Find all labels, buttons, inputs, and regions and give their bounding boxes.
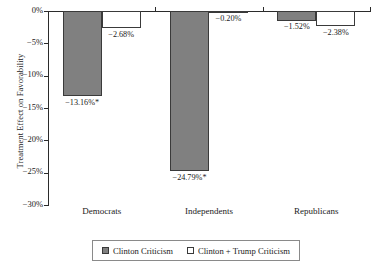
bar bbox=[63, 11, 102, 96]
bar bbox=[277, 11, 316, 21]
group-tick bbox=[263, 7, 264, 12]
legend-item[interactable]: Clinton Criticism bbox=[102, 246, 173, 256]
bar-value-label: −13.16%* bbox=[65, 98, 99, 107]
y-tick-label: −5% bbox=[27, 37, 43, 47]
bar-chart: Treatment Effect on Favorability 0%−5%−1… bbox=[0, 0, 377, 269]
y-tick-mark bbox=[44, 43, 49, 44]
plot-area: 0%−5%−10%−15%−20%−25%−30% −13.16%*−2.68%… bbox=[48, 11, 370, 205]
y-tick-label: −20% bbox=[23, 134, 43, 144]
bar bbox=[102, 11, 141, 28]
y-tick-mark bbox=[44, 140, 49, 141]
y-tick-mark bbox=[44, 108, 49, 109]
bar bbox=[316, 11, 355, 26]
y-tick-label: −10% bbox=[23, 69, 43, 79]
bar-value-label: −1.52% bbox=[284, 22, 310, 31]
bar-value-label: −2.68% bbox=[108, 30, 134, 39]
y-tick-mark bbox=[44, 173, 49, 174]
legend-label: Clinton Criticism bbox=[113, 246, 173, 256]
group-tick bbox=[155, 7, 156, 12]
y-tick-mark bbox=[44, 11, 49, 12]
y-tick-mark bbox=[44, 205, 49, 206]
bar-value-label: −0.20% bbox=[216, 14, 242, 23]
y-tick-label: −25% bbox=[23, 166, 43, 176]
y-tick-label: 0% bbox=[32, 5, 43, 15]
x-axis-label: Republicans bbox=[294, 206, 339, 216]
x-axis-label: Independents bbox=[185, 206, 233, 216]
bar bbox=[170, 11, 209, 171]
y-tick-label: −30% bbox=[23, 199, 43, 209]
legend-label: Clinton + Trump Criticism bbox=[198, 246, 290, 256]
bar-value-label: −2.38% bbox=[323, 28, 349, 37]
y-tick-mark bbox=[44, 76, 49, 77]
bar-value-label: −24.79%* bbox=[173, 173, 207, 182]
axis-end-tick bbox=[370, 7, 371, 12]
legend-swatch bbox=[102, 247, 109, 254]
y-tick-label: −15% bbox=[23, 102, 43, 112]
chart-legend: Clinton CriticismClinton + Trump Critici… bbox=[92, 240, 300, 261]
legend-item[interactable]: Clinton + Trump Criticism bbox=[187, 246, 290, 256]
bar bbox=[209, 11, 248, 13]
legend-swatch bbox=[187, 247, 194, 254]
x-axis-label: Democrats bbox=[82, 206, 121, 216]
